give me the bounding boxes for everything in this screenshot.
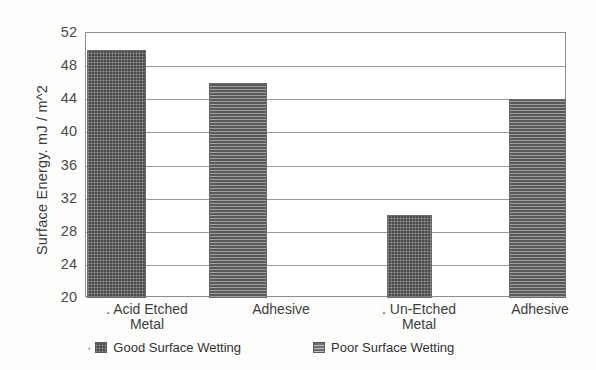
legend-swatch-icon: [313, 342, 325, 353]
y-axis-title: Surface Energy. mJ / m^2: [34, 40, 50, 300]
gridline: [86, 66, 565, 67]
plot-area: [85, 32, 566, 297]
legend-item[interactable]: ·Good Surface Wetting: [87, 340, 241, 355]
gridline: [86, 265, 565, 266]
y-axis-tick-label: 52: [37, 25, 77, 40]
x-axis-label-line: Adhesive: [206, 302, 356, 317]
x-axis-label: Adhesive: [206, 302, 356, 317]
x-axis-label-line: . Acid Etched: [72, 302, 222, 317]
x-axis-labels: . Acid EtchedMetalAdhesive. Un-EtchedMet…: [85, 302, 566, 336]
gridline: [86, 166, 565, 167]
legend-bullet-icon: ·: [87, 340, 91, 355]
x-axis-label-line: Adhesive: [465, 302, 596, 317]
gridline: [86, 232, 565, 233]
x-axis-label-line: Metal: [344, 317, 494, 332]
gridline: [86, 132, 565, 133]
chart-legend: ·Good Surface WettingPoor Surface Wettin…: [85, 340, 566, 360]
legend-item[interactable]: Poor Surface Wetting: [313, 340, 454, 355]
bar: [509, 99, 566, 298]
bar-chart: Surface Energy. mJ / m^2 524844403632282…: [0, 0, 596, 370]
legend-swatch-icon: [95, 342, 107, 353]
x-axis-label: . Acid EtchedMetal: [72, 302, 222, 332]
legend-label: Good Surface Wetting: [113, 340, 241, 355]
x-axis-label-line: Metal: [72, 317, 222, 332]
bar: [209, 83, 267, 298]
gridline: [86, 199, 565, 200]
legend-label: Poor Surface Wetting: [331, 340, 454, 355]
x-axis-label: Adhesive: [465, 302, 596, 317]
gridline: [86, 99, 565, 100]
bar: [387, 215, 432, 298]
bar: [87, 50, 146, 298]
